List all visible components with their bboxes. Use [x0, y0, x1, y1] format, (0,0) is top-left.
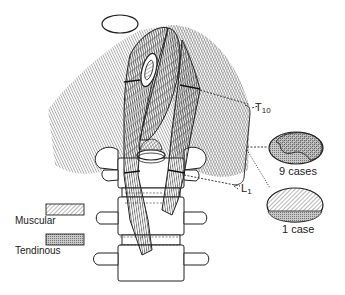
legend-swatch-tendinous — [46, 234, 84, 245]
cross-section-label-1-case: 1 case — [282, 224, 314, 235]
vertebral-column — [94, 147, 209, 281]
cross-section-1-case — [267, 188, 323, 222]
anatomical-diagram: T10 L1 9 cases 1 case Muscular Tendinous — [0, 0, 345, 295]
level-letter: T — [255, 101, 262, 113]
level-label-l1: L1 — [241, 183, 252, 196]
legend-swatch-muscular — [46, 204, 84, 215]
legend-label-muscular: Muscular — [15, 216, 56, 226]
level-number: 10 — [262, 106, 271, 115]
level-number: 1 — [247, 187, 251, 196]
cross-section-label-9-cases: 9 cases — [279, 166, 317, 177]
legend-label-tendinous: Tendinous — [15, 246, 61, 256]
level-label-t10: T10 — [255, 102, 271, 115]
top-left-ellipse — [102, 15, 138, 33]
cross-section-9-cases — [269, 132, 323, 164]
